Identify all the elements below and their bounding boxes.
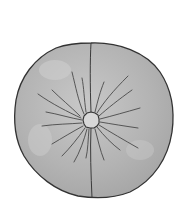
cushion-illustration <box>0 0 191 214</box>
center-button <box>83 112 99 128</box>
